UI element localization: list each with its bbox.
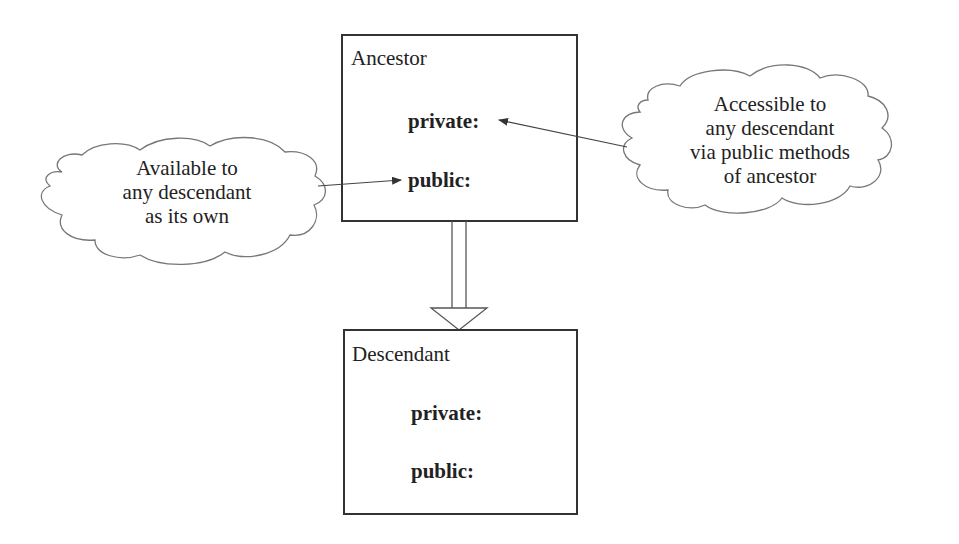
right-note-line: of ancestor	[660, 164, 880, 188]
descendant-public-label: public:	[411, 461, 474, 482]
ancestor-public-label: public:	[408, 170, 471, 191]
left-note-line: as its own	[82, 204, 292, 228]
left-note-text: Available to any descendant as its own	[82, 156, 292, 228]
right-note-line: any descendant	[660, 116, 880, 140]
ancestor-private-label: private:	[408, 111, 479, 132]
right-note-line: via public methods	[660, 140, 880, 164]
left-note-line: any descendant	[82, 180, 292, 204]
descendant-private-label: private:	[411, 403, 482, 424]
right-note-line: Accessible to	[660, 92, 880, 116]
descendant-title: Descendant	[352, 344, 450, 365]
ancestor-title: Ancestor	[351, 48, 427, 69]
inheritance-arrowhead-icon	[431, 308, 487, 330]
diagram-canvas	[0, 0, 959, 544]
left-note-line: Available to	[82, 156, 292, 180]
right-note-text: Accessible to any descendant via public …	[660, 92, 880, 188]
